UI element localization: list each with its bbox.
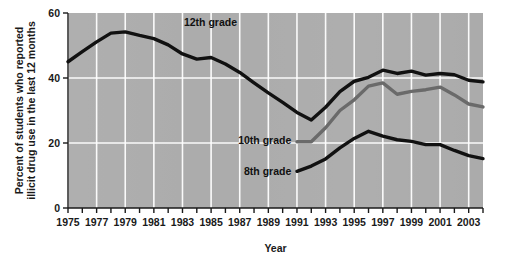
drug-use-line-chart: 0204060197519771979198119831985198719891… <box>0 0 507 267</box>
x-tick-label: 1997 <box>371 216 395 228</box>
y-axis-title-line-2: illicit drug use in the last 12 months <box>25 21 37 200</box>
x-tick-label: 1999 <box>400 216 424 228</box>
y-tick-label: 40 <box>48 72 60 84</box>
x-tick-label: 1989 <box>257 216 281 228</box>
series-label-8th-grade: 8th grade <box>244 165 291 177</box>
x-tick-label: 1991 <box>285 216 309 228</box>
x-axis-title: Year <box>264 242 286 254</box>
series-label-10th-grade: 10th grade <box>238 134 291 146</box>
x-tick-label: 1977 <box>85 216 109 228</box>
y-tick-label: 20 <box>48 137 60 149</box>
x-tick-label: 1979 <box>114 216 138 228</box>
y-tick-label: 60 <box>48 7 60 19</box>
x-tick-label: 1987 <box>228 216 252 228</box>
chart-figure: 0204060197519771979198119831985198719891… <box>0 0 507 267</box>
plot-area-background <box>68 13 483 208</box>
x-tick-label: 1983 <box>171 216 195 228</box>
x-tick-label: 1975 <box>56 216 80 228</box>
x-tick-label: 2001 <box>428 216 452 228</box>
x-tick-label: 2003 <box>457 216 481 228</box>
x-tick-label: 1993 <box>314 216 338 228</box>
series-label-12th-grade: 12th grade <box>184 16 237 28</box>
x-tick-label: 1981 <box>142 216 166 228</box>
x-tick-label: 1995 <box>343 216 367 228</box>
y-tick-label: 0 <box>54 202 60 214</box>
x-tick-label: 1985 <box>199 216 223 228</box>
y-axis-title-line-1: Percent of students who reported <box>13 27 25 194</box>
